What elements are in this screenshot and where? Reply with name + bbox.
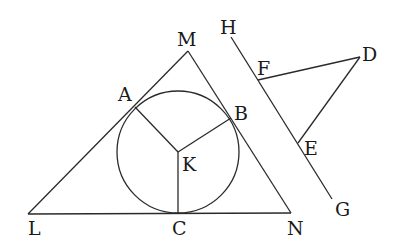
side-LN <box>28 213 291 214</box>
radius-KA <box>135 107 178 152</box>
label-F: F <box>257 57 270 79</box>
segment-FD <box>258 57 360 80</box>
label-E: E <box>304 137 318 159</box>
label-D: D <box>362 43 377 65</box>
label-N: N <box>287 217 304 239</box>
label-L: L <box>28 217 41 239</box>
segment-DE <box>298 57 360 143</box>
label-B: B <box>234 102 248 124</box>
label-G: G <box>335 198 350 220</box>
radius-KB <box>178 118 231 152</box>
label-M: M <box>177 28 196 50</box>
label-K: K <box>182 153 197 175</box>
label-A: A <box>117 83 132 105</box>
side-LM <box>28 51 188 214</box>
side-MN <box>188 51 291 213</box>
label-H: H <box>220 16 237 38</box>
label-C: C <box>172 217 187 239</box>
geometry-diagram: M H F D A B K E G L C N <box>0 0 399 245</box>
